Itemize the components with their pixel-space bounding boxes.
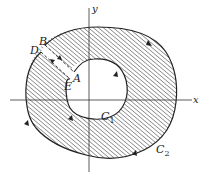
diagram-canvas: y x B D A E C1 C2	[0, 0, 202, 178]
point-d-label: D	[29, 44, 39, 57]
point-a-label: A	[72, 72, 81, 85]
y-axis-label: y	[91, 3, 98, 14]
c2-label: C2	[156, 143, 170, 158]
x-axis-label: x	[193, 94, 199, 105]
point-e-label: E	[63, 80, 72, 93]
arrow-icon	[24, 120, 29, 126]
point-b-label: B	[38, 35, 47, 48]
